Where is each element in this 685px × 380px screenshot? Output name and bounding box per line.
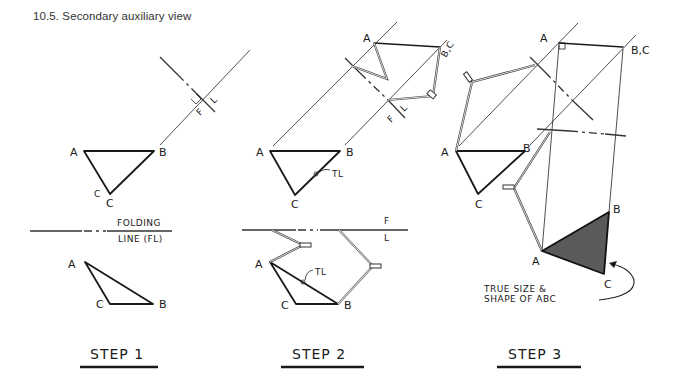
step3-secondary-projection-a — [542, 45, 559, 251]
step-3-panel: A B C A B,C A B C TRUE SI — [441, 23, 650, 367]
step3-secondary-projection-bc — [609, 49, 623, 212]
step1-top-label-b: B — [159, 146, 167, 159]
step1-front-label-c: C — [96, 298, 104, 311]
step3-secondary-fl-dashed — [570, 131, 605, 134]
step-2-panel: A B C TL F L A B,C F L A C — [242, 22, 456, 367]
step2-aux-label-a: A — [363, 32, 371, 45]
step3-aux-fl-dashed — [545, 72, 572, 100]
step2-dividers-knob — [427, 90, 436, 99]
step1-top-label-c-small: C — [94, 189, 101, 199]
step1-front-label-b: B — [159, 298, 167, 311]
step1-front-label-a: A — [68, 258, 76, 271]
step3-dividers-knob-lower — [503, 185, 514, 189]
step3-top-label-a: A — [441, 146, 449, 159]
step2-top-label-b: B — [346, 146, 354, 159]
step3-projection-line-b — [530, 35, 636, 145]
step3-top-label-b: B — [523, 142, 531, 155]
step3-true-label-b: B — [613, 203, 621, 216]
step2-aux-label-bc: B,C — [439, 39, 456, 59]
step1-aux-fl-solid-1 — [160, 57, 178, 75]
step2-title: STEP 2 — [292, 346, 346, 362]
step1-aux-fl-dashed — [178, 75, 196, 93]
step2-tl-leader-bottom — [305, 270, 313, 280]
step2-front-label-a: A — [255, 258, 263, 271]
step2-top-label-c: C — [291, 198, 299, 211]
step1-top-label-a: A — [70, 146, 78, 159]
step3-projection-line-a — [459, 23, 578, 146]
step2-dividers-a — [352, 43, 387, 79]
step3-aux-label-a: A — [540, 32, 548, 45]
step2-fl-label-f: F — [384, 216, 390, 226]
secondary-auxiliary-view-diagram: A B C C F L FOLDING LINE (FL) A C B STEP… — [0, 0, 685, 380]
step3-title: STEP 3 — [508, 346, 562, 362]
step3-true-shape-triangle — [542, 212, 609, 274]
step2-front-label-c: C — [281, 299, 289, 312]
step2-front-label-b: B — [344, 299, 352, 312]
step2-top-label-a: A — [256, 146, 264, 159]
step1-fl-label-line: LINE (FL) — [118, 234, 163, 244]
step3-top-label-c: C — [475, 198, 483, 211]
step2-dividers-knob-a — [300, 243, 311, 247]
step2-dividers-knob-b — [370, 264, 381, 268]
step1-aux-fl-label-l: L — [208, 94, 219, 105]
step3-true-label-c: C — [604, 278, 612, 291]
step2-top-triangle — [270, 151, 340, 195]
step2-front-triangle — [270, 262, 338, 304]
step2-dividers-front-b — [338, 230, 373, 304]
step1-projection-line — [160, 50, 250, 145]
step2-dividers-front-a — [270, 230, 303, 262]
step2-tl-label-bottom: TL — [314, 267, 327, 277]
step2-aux-edge-view — [374, 43, 440, 47]
step1-top-triangle — [84, 151, 154, 194]
step2-projection-line-a — [273, 22, 397, 146]
step3-aux-fl-solid-2 — [572, 100, 593, 120]
step3-dividers-lower — [514, 132, 550, 251]
step2-fl-label-l: L — [384, 233, 390, 243]
step1-title: STEP 1 — [90, 346, 144, 362]
step3-aux-label-bc: B,C — [631, 44, 650, 57]
step2-aux-fl-label-f: F — [385, 113, 396, 124]
step3-annotation-line2: SHAPE OF ABC — [484, 294, 556, 304]
step3-true-label-a: A — [532, 255, 540, 268]
step2-tl-label-top: TL — [331, 169, 344, 179]
step1-aux-fl-label-f: F — [194, 106, 205, 117]
step1-top-label-c: C — [106, 197, 114, 210]
step3-dividers-knob-upper — [463, 72, 472, 82]
step1-right-angle-mark — [191, 94, 201, 104]
step1-fl-label-folding: FOLDING — [117, 218, 161, 228]
step-1-panel: A B C C F L FOLDING LINE (FL) A C B STEP… — [30, 50, 250, 367]
step3-annotation-line1: TRUE SIZE & — [483, 284, 546, 294]
step3-aux-edge-view — [559, 43, 623, 47]
step3-secondary-fl-solid-1 — [537, 129, 570, 131]
